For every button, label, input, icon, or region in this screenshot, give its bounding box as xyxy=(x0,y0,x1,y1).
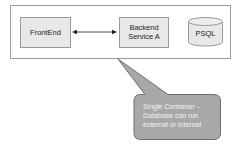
frontend-label: FrontEnd xyxy=(30,28,61,37)
callout-line3: external or internal xyxy=(143,121,201,128)
callout-line1: Single Container - xyxy=(143,103,200,111)
psql-database-node[interactable]: PSQL xyxy=(189,18,223,47)
backend-service-node[interactable]: Backend Service A xyxy=(120,18,169,48)
note-callout: Single Container - Database can run exte… xyxy=(118,59,221,140)
backend-label-line2: Service A xyxy=(128,32,160,41)
architecture-diagram: FrontEnd Backend Service A PSQL Single C… xyxy=(0,0,233,161)
frontend-node[interactable]: FrontEnd xyxy=(21,18,71,48)
backend-label-line1: Backend xyxy=(129,23,158,32)
psql-label: PSQL xyxy=(195,29,215,38)
callout-line2: Database can run xyxy=(143,112,198,119)
